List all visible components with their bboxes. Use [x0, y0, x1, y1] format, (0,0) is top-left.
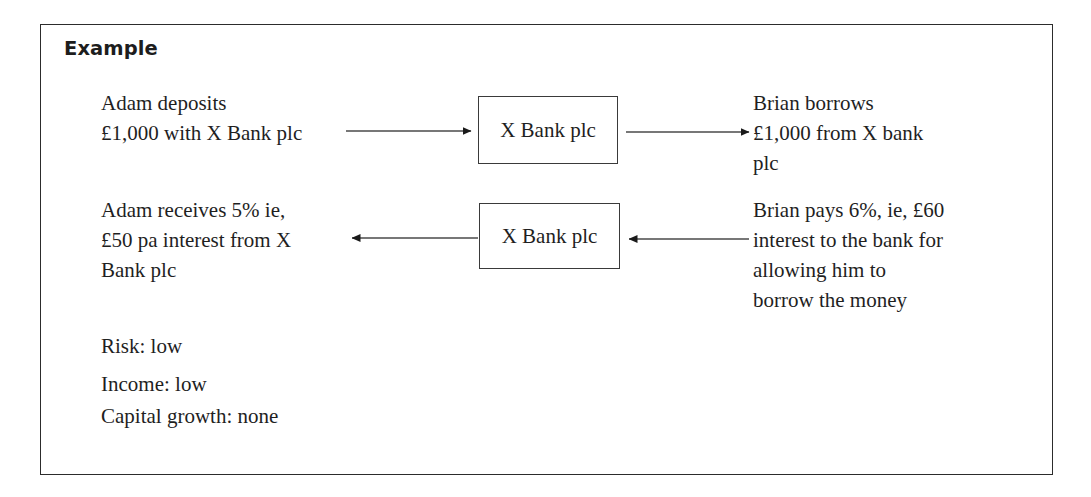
- text-line: Brian borrows: [753, 88, 923, 118]
- text-line: £50 pa interest from X: [101, 225, 291, 255]
- adam-receives-text: Adam receives 5% ie, £50 pa interest fro…: [101, 195, 291, 285]
- text-line: £1,000 with X Bank plc: [101, 118, 302, 148]
- brian-pays-text: Brian pays 6%, ie, £60 interest to the b…: [753, 195, 944, 315]
- bank-node-top: X Bank plc: [478, 96, 618, 164]
- text-line: plc: [753, 148, 923, 178]
- text-line: interest to the bank for: [753, 225, 944, 255]
- summary-item-label: Capital growth: none: [101, 401, 278, 431]
- bank-node-label: X Bank plc: [502, 224, 598, 249]
- adam-deposits-text: Adam deposits £1,000 with X Bank plc: [101, 88, 302, 148]
- text-line: Adam receives 5% ie,: [101, 195, 291, 225]
- summary-item-label: Risk: low: [101, 331, 182, 361]
- text-line: £1,000 from X bank: [753, 118, 923, 148]
- page-title: Example: [64, 37, 158, 60]
- text-line: allowing him to: [753, 255, 944, 285]
- text-line: Brian pays 6%, ie, £60: [753, 195, 944, 225]
- summary-item-risk: Risk: low: [101, 331, 182, 361]
- summary-item-income: Income: low: [101, 369, 207, 399]
- text-line: Bank plc: [101, 255, 291, 285]
- text-line: Adam deposits: [101, 88, 302, 118]
- bank-node-bottom: X Bank plc: [479, 203, 620, 269]
- text-line: borrow the money: [753, 285, 944, 315]
- summary-item-capital-growth: Capital growth: none: [101, 401, 278, 431]
- example-panel: Example Adam deposits £1,000 with X Bank…: [40, 24, 1053, 475]
- brian-borrows-text: Brian borrows £1,000 from X bank plc: [753, 88, 923, 178]
- bank-node-label: X Bank plc: [500, 118, 596, 143]
- summary-item-label: Income: low: [101, 369, 207, 399]
